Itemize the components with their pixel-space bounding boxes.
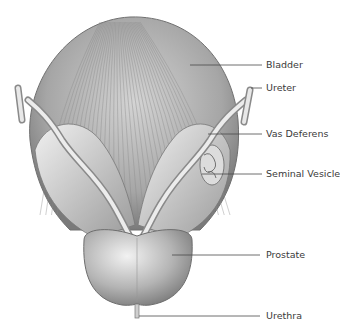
label-ureter: Ureter xyxy=(266,83,296,93)
urethra-shape xyxy=(135,304,139,318)
label-seminal-vesicle: Seminal Vesicle xyxy=(266,169,340,179)
label-prostate: Prostate xyxy=(266,250,305,260)
prostate-shape xyxy=(84,230,192,306)
label-vas-deferens: Vas Deferens xyxy=(266,129,328,139)
label-bladder: Bladder xyxy=(266,60,303,70)
label-urethra: Urethra xyxy=(266,311,302,321)
